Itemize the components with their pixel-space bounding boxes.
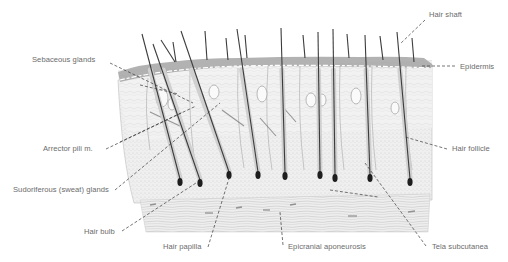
- label-hair-shaft: Hair shaft: [429, 11, 462, 19]
- aponeurosis-band: [140, 194, 430, 232]
- label-tela-subcutanea: Tela subcutanea: [432, 243, 488, 251]
- hair-bulb: [197, 179, 202, 187]
- hair-shaft: [347, 34, 349, 58]
- hair-bulb: [332, 174, 337, 182]
- label-epicranial-aponeurosis: Epicranial aponeurosis: [288, 243, 366, 251]
- hair-shaft: [303, 35, 305, 58]
- label-epidermis: Epidermis: [460, 63, 494, 71]
- hair-shaft: [380, 36, 383, 60]
- label-hair-papilla: Hair papilla: [163, 243, 202, 251]
- hair-bulb: [177, 178, 182, 186]
- skin-cross-section-diagram: Hair shaft Sebaceous glands Epidermis Ar…: [0, 0, 508, 262]
- hair-bulb: [255, 171, 260, 179]
- hair-shaft: [205, 31, 207, 60]
- hair-bulb: [282, 172, 287, 180]
- hair-shaft: [226, 38, 228, 60]
- label-hair-bulb: Hair bulb: [84, 228, 115, 236]
- hair-bulb: [407, 178, 412, 186]
- label-sudoriferous-glands: Sudoriferous (sweat) glands: [13, 186, 109, 194]
- label-arrector-pili: Arrector pili m.: [43, 145, 93, 153]
- label-hair-follicle: Hair follicle: [452, 145, 490, 153]
- hair-bulb: [317, 171, 322, 179]
- scalp-illustration: [0, 0, 508, 262]
- hair-bulb: [367, 174, 372, 182]
- hair-shaft: [245, 35, 247, 58]
- label-sebaceous-glands: Sebaceous glands: [32, 56, 95, 64]
